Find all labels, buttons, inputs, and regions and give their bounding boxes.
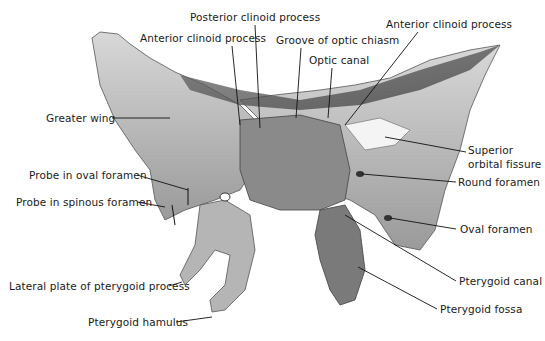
- left-round-foramen-shape: [220, 193, 230, 201]
- left-greater-wing-shape: [92, 32, 260, 220]
- label-anterior-clinoid-process-left: Anterior clinoid process: [140, 32, 266, 44]
- label-probe-in-oval-foramen: Probe in oval foramen: [29, 169, 147, 181]
- label-greater-wing: Greater wing: [46, 112, 115, 124]
- left-pterygoid-process-shape: [180, 200, 255, 312]
- label-superior-orbital-fissure-line2: orbital fissure: [468, 158, 541, 170]
- label-round-foramen: Round foramen: [458, 176, 540, 188]
- label-groove-of-optic-chiasm: Groove of optic chiasm: [276, 34, 399, 46]
- label-optic-canal: Optic canal: [309, 54, 369, 66]
- label-lateral-plate-of-pterygoid-process: Lateral plate of pterygoid process: [9, 280, 190, 292]
- label-posterior-clinoid-process: Posterior clinoid process: [190, 11, 320, 23]
- label-pterygoid-fossa: Pterygoid fossa: [440, 303, 522, 315]
- label-oval-foramen: Oval foramen: [460, 223, 533, 235]
- label-probe-in-spinous-foramen: Probe in spinous foramen: [16, 196, 152, 208]
- right-pterygoid-process-shape: [315, 205, 365, 305]
- label-superior-orbital-fissure-line1: Superior: [468, 144, 513, 156]
- label-anterior-clinoid-process-right: Anterior clinoid process: [386, 18, 512, 30]
- label-pterygoid-hamulus: Pterygoid hamulus: [88, 316, 188, 328]
- sphenoid-body-shape: [240, 115, 350, 210]
- label-pterygoid-canal: Pterygoid canal: [459, 275, 542, 287]
